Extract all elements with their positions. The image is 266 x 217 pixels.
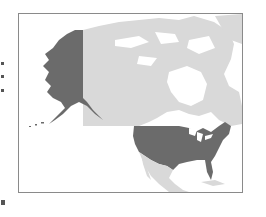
edge-fragment [1,75,4,78]
map-frame[interactable] [18,13,243,193]
canada-region[interactable] [83,16,242,126]
edge-fragment [1,200,5,205]
map-canvas[interactable] [19,14,242,192]
edge-fragment [1,62,4,65]
edge-fragment [1,89,4,92]
left-edge-fragments [0,0,10,217]
